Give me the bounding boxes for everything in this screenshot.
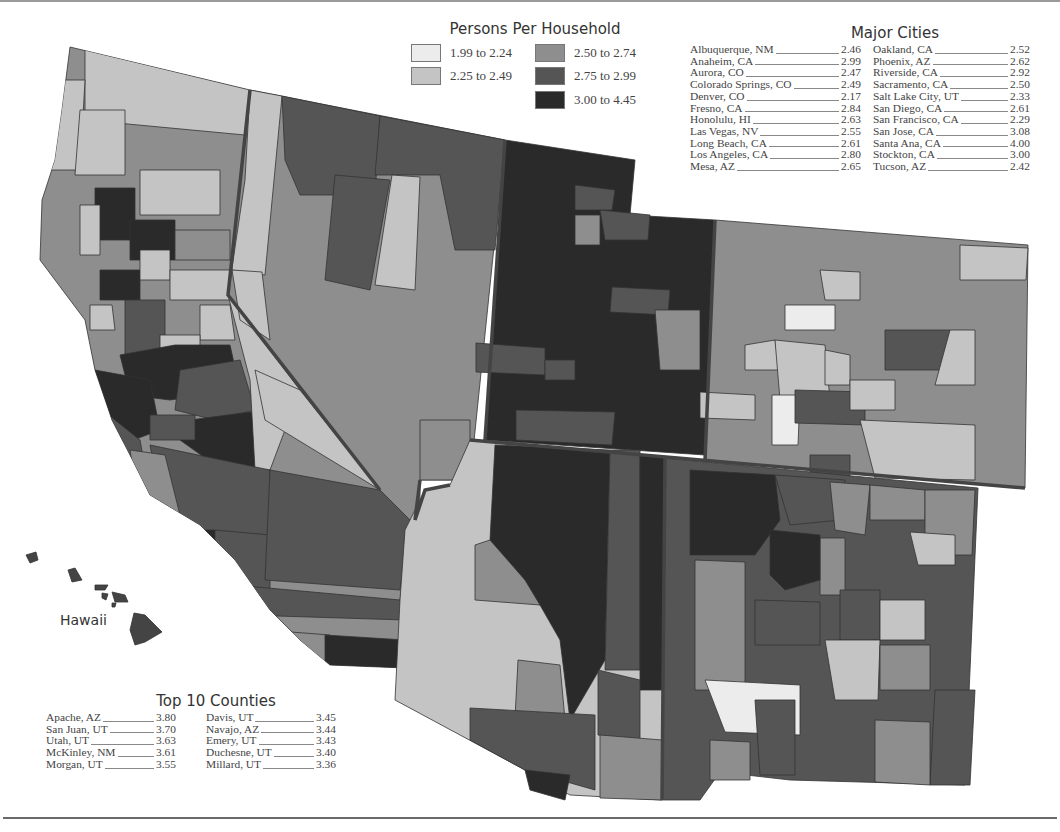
top-counties-title: Top 10 Counties <box>66 692 366 710</box>
city-row: Tucson, AZ2.42 <box>873 161 1030 173</box>
bottom-rule <box>3 817 1057 819</box>
city-value: 2.55 <box>841 126 861 138</box>
county-value: 3.45 <box>316 712 336 724</box>
county-value: 3.55 <box>156 759 176 771</box>
legend-swatch <box>411 44 441 62</box>
county-name: Millard, UT <box>206 759 261 771</box>
major-cities-title: Major Cities <box>760 24 1030 42</box>
county-name: Davis, UT <box>206 712 253 724</box>
state-utah <box>476 140 715 455</box>
state-arizona <box>395 440 665 800</box>
legend-item: 2.25 to 2.49 <box>411 67 512 85</box>
legend-item: 3.00 to 4.45 <box>535 91 636 109</box>
state-hawaii <box>26 552 162 645</box>
legend-label: 3.00 to 4.45 <box>574 92 636 108</box>
city-value: 2.33 <box>1010 91 1030 103</box>
city-name: Albuquerque, NM <box>690 44 774 56</box>
city-name: Mesa, AZ <box>690 161 735 173</box>
city-value: 2.46 <box>841 44 861 56</box>
county-row: Davis, UT3.45 <box>206 712 336 724</box>
city-name: Tucson, AZ <box>873 161 926 173</box>
city-name: Denver, CO <box>690 91 745 103</box>
city-name: Oakland, CA <box>873 44 933 56</box>
city-name: San Jose, CA <box>873 126 934 138</box>
city-value: 2.65 <box>841 161 861 173</box>
hawaii-label: Hawaii <box>60 612 107 628</box>
city-row: Albuquerque, NM2.46 <box>690 44 861 56</box>
county-name: Morgan, UT <box>46 759 103 771</box>
legend-label: 2.25 to 2.49 <box>450 68 512 84</box>
city-name: Salt Lake City, UT <box>873 91 959 103</box>
major-cities-table: Major Cities Albuquerque, NM2.46 Anaheim… <box>690 24 1030 173</box>
city-row: Oakland, CA2.52 <box>873 44 1030 56</box>
county-row: Millard, UT3.36 <box>206 759 336 771</box>
city-value: 3.08 <box>1010 126 1030 138</box>
legend-item: 2.50 to 2.74 <box>535 44 636 62</box>
city-row: Mesa, AZ2.65 <box>690 161 861 173</box>
county-row: Apache, AZ3.80 <box>46 712 176 724</box>
city-name: Las Vegas, NV <box>690 126 758 138</box>
county-value: 3.36 <box>316 759 336 771</box>
legend-label: 1.99 to 2.24 <box>450 45 512 61</box>
county-value: 3.80 <box>156 712 176 724</box>
city-row: Salt Lake City, UT2.33 <box>873 91 1030 103</box>
legend-label: 2.75 to 2.99 <box>574 68 636 84</box>
legend-item: 1.99 to 2.24 <box>411 44 512 62</box>
county-row: Morgan, UT3.55 <box>46 759 176 771</box>
state-colorado <box>700 220 1028 488</box>
county-name: Apache, AZ <box>46 712 101 724</box>
city-value: 2.52 <box>1010 44 1030 56</box>
legend-swatch <box>411 67 441 85</box>
city-row: Las Vegas, NV2.55 <box>690 126 861 138</box>
legend-label: 2.50 to 2.74 <box>574 45 636 61</box>
legend-swatch <box>535 91 565 109</box>
top-counties-table: Top 10 Counties Apache, AZ3.80 San Juan,… <box>46 692 366 771</box>
legend-title: Persons Per Household <box>395 20 675 38</box>
legend-swatch <box>535 44 565 62</box>
city-value: 2.17 <box>841 91 861 103</box>
legend: Persons Per Household 1.99 to 2.24 2.25 … <box>405 20 675 124</box>
legend-swatch <box>535 67 565 85</box>
city-value: 2.42 <box>1010 161 1030 173</box>
state-new-mexico <box>662 458 978 800</box>
legend-item: 2.75 to 2.99 <box>535 67 636 85</box>
city-row: San Jose, CA3.08 <box>873 126 1030 138</box>
city-row: Denver, CO2.17 <box>690 91 861 103</box>
